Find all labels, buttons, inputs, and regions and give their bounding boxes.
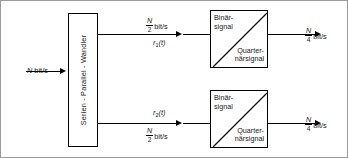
input-wire-segment [26,71,60,72]
lower-mapper-diagonal-icon [211,91,269,149]
diagram-canvas: Nbit/s Serien - Parallel - Wandler N 2 b… [1,1,347,157]
lower-signal-arg: (t) [158,108,165,117]
block-diagram-figure: Nbit/s Serien - Parallel - Wandler N 2 b… [0,0,348,158]
lower-branch-arrow-icon [176,120,182,126]
upper-branch-arrow-icon [176,31,182,37]
upper-branch-wire-to-mapper [183,34,211,35]
serial-parallel-converter-block: Serien - Parallel - Wandler [68,13,98,147]
upper-branch-wire [98,34,176,35]
lower-mapper-block: Binär- signal Quarter- närsignal [210,90,268,148]
upper-signal-arg: (t) [158,38,165,47]
lower-branch-rate-label: N 2 bit/s [146,127,168,144]
upper-mapper-diagonal-icon [211,11,269,69]
lower-output-rate-fraction: N 4 [305,116,312,133]
serial-parallel-converter-label: Serien - Parallel - Wandler [79,35,88,125]
upper-output-rate-fraction: N 4 [305,27,312,44]
lower-branch-rate-fraction: N 2 [146,127,153,144]
upper-branch-signal-label: r1(t) [153,39,165,49]
lower-branch-signal-label: r2(t) [153,109,165,119]
upper-branch-rate-label: N 2 bit/s [146,17,168,34]
lower-branch-wire-to-mapper [183,123,211,124]
lower-branch-wire [98,123,176,124]
input-arrow-icon [60,68,66,74]
upper-mapper-block: Binär- signal Quarter- närsignal [210,10,268,68]
lower-output-rate-label: N 4 bit/s [305,116,327,133]
upper-output-rate-label: N 4 bit/s [305,27,327,44]
upper-branch-rate-fraction: N 2 [146,17,153,34]
